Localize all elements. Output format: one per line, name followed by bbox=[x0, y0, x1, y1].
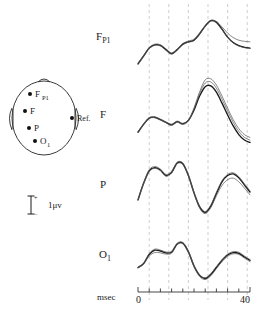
trace-Fp1-trial-3 bbox=[138, 20, 250, 63]
trace-Fp1-trial-2 bbox=[138, 21, 250, 65]
trace-Fp1-trial-1 bbox=[138, 20, 250, 63]
trace-F-trial-1 bbox=[138, 85, 250, 142]
trace-P-trial-3 bbox=[138, 161, 250, 211]
x-axis-tick-40: 40 bbox=[240, 294, 250, 305]
x-axis-title: msec bbox=[97, 292, 116, 302]
trace-group-Fp1 bbox=[138, 20, 250, 65]
x-axis-tick-0: 0 bbox=[136, 294, 141, 305]
evoked-potential-figure: F P1 F P O 1 Ref. + − 1μv FP1 F P bbox=[0, 0, 260, 315]
trace-group-O1 bbox=[138, 242, 250, 280]
waveform-plot bbox=[0, 0, 260, 315]
trace-group-F bbox=[138, 78, 250, 142]
trace-P-trial-1 bbox=[138, 162, 250, 212]
trace-P-trial-2 bbox=[138, 163, 250, 214]
trace-O1-trial-2 bbox=[138, 243, 250, 280]
trace-O1-trial-3 bbox=[138, 242, 250, 278]
trace-group-P bbox=[138, 161, 250, 213]
trace-O1-trial-1 bbox=[138, 242, 250, 278]
trace-F-trial-3 bbox=[138, 78, 250, 137]
